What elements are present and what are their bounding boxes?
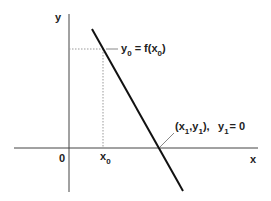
diagram-canvas: y x 0 x0 y0 = f(x0) (x1,y1), y1= 0 <box>0 0 271 201</box>
x1-leader-line <box>160 133 174 147</box>
x1-annotation: (x1,y1), <box>175 120 210 136</box>
origin-label: 0 <box>59 152 65 164</box>
y-axis-label: y <box>55 11 62 23</box>
x-axis-label: x <box>250 153 257 165</box>
graph-svg: y x 0 x0 y0 = f(x0) (x1,y1), y1= 0 <box>0 0 271 201</box>
y1-condition: y1= 0 <box>218 120 245 136</box>
x0-label: x0 <box>100 150 111 166</box>
y0-annotation: y0 = f(x0) <box>121 42 166 58</box>
